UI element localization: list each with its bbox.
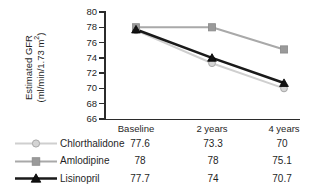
y-axis-title-superscript: 2 xyxy=(33,36,40,40)
marker-triangle-lisinopril xyxy=(208,54,217,62)
y-axis-tick-label: 68 xyxy=(86,99,97,109)
legend-series-name: Amlodipine xyxy=(60,155,109,167)
y-axis-tick-label: 80 xyxy=(86,7,97,17)
marker-square-amlodipine xyxy=(208,24,215,31)
legend-swatch-circle-icon xyxy=(14,135,58,152)
y-axis-tick-label: 72 xyxy=(86,68,97,78)
y-axis-title: Estimated GFR (ml/min/1.73 m2) xyxy=(23,2,46,134)
marker-triangle-lisinopril xyxy=(280,79,289,87)
legend-value-cell: 73.3 xyxy=(203,138,222,150)
legend-series-name: Lisinopril xyxy=(60,173,99,185)
y-axis-tick-label: 74 xyxy=(86,53,97,63)
series-line-amlodipine xyxy=(136,27,284,49)
y-axis-line xyxy=(104,11,106,120)
y-axis-tick xyxy=(99,57,104,58)
x-axis-tick-label: Baseline xyxy=(118,123,154,134)
y-axis-tick xyxy=(99,27,104,28)
legend-value-cell: 77.7 xyxy=(130,173,149,185)
legend-row: Lisinopril77.77470.7 xyxy=(0,170,311,187)
y-axis-title-line2-prefix: (ml/min/1.73 m xyxy=(34,40,45,103)
y-axis-tick xyxy=(99,72,104,73)
marker-triangle-lisinopril xyxy=(132,25,141,33)
y-axis-tick xyxy=(99,103,104,104)
x-axis-tick-label: 2 years xyxy=(196,123,227,134)
legend-marker-circle-icon xyxy=(32,140,39,147)
legend-marker-square-icon xyxy=(32,157,40,165)
legend-swatch-triangle-icon xyxy=(14,170,58,187)
x-axis-line xyxy=(104,119,300,121)
y-axis-tick-label: 78 xyxy=(86,22,97,32)
legend-series-name: Chlorthalidone xyxy=(60,138,125,150)
marker-circle-chlorthalidone xyxy=(133,27,140,34)
series-line-chlorthalidone xyxy=(136,30,284,88)
y-axis-title-line2: (ml/min/1.73 m2) xyxy=(34,2,46,134)
y-axis-tick xyxy=(99,42,104,43)
legend-value-cell: 77.6 xyxy=(130,138,149,150)
legend-table: Chlorthalidone77.673.370Amlodipine787875… xyxy=(0,135,311,193)
legend-value-cell: 74 xyxy=(207,173,218,185)
legend-swatch-square-icon xyxy=(14,153,58,170)
legend-value-cell: 70.7 xyxy=(272,173,291,185)
legend-value-cell: 78 xyxy=(207,155,218,167)
x-axis-tick-label: 4 years xyxy=(268,123,299,134)
y-axis-tick xyxy=(99,118,104,119)
series-line-lisinopril xyxy=(136,30,284,84)
y-axis-title-line2-suffix: ) xyxy=(34,33,45,36)
y-axis-title-line1: Estimated GFR xyxy=(23,2,35,134)
marker-circle-chlorthalidone xyxy=(209,60,216,67)
legend-value-cell: 70 xyxy=(276,138,287,150)
y-axis-tick xyxy=(99,11,104,12)
y-axis-tick-label: 66 xyxy=(86,114,97,124)
legend-row: Chlorthalidone77.673.370 xyxy=(0,135,311,152)
marker-circle-chlorthalidone xyxy=(281,85,288,92)
y-axis-tick-label: 76 xyxy=(86,38,97,48)
marker-square-amlodipine xyxy=(132,24,139,31)
y-axis-tick xyxy=(99,88,104,89)
marker-square-amlodipine xyxy=(280,46,287,53)
legend-value-cell: 78 xyxy=(134,155,145,167)
gfr-line-chart: Estimated GFR (ml/min/1.73 m2) 807876747… xyxy=(0,0,311,193)
legend-value-cell: 75.1 xyxy=(272,155,291,167)
y-axis-tick-label: 70 xyxy=(86,83,97,93)
legend-row: Amlodipine787875.1 xyxy=(0,153,311,170)
